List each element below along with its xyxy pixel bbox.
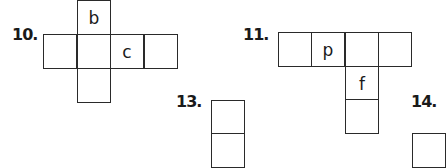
net-cell bbox=[77, 68, 111, 103]
net-cell bbox=[144, 34, 178, 69]
net-cell bbox=[378, 32, 412, 67]
net-cell bbox=[211, 133, 245, 168]
problem-number-13: 13. bbox=[176, 92, 201, 111]
net-cell bbox=[278, 32, 312, 67]
net-cell: c bbox=[110, 34, 144, 69]
net-cell bbox=[211, 100, 245, 135]
net-cell bbox=[43, 34, 77, 69]
net-cell: f bbox=[345, 66, 379, 101]
net-cell bbox=[412, 133, 446, 168]
net-cell bbox=[77, 34, 111, 69]
problem-number-14: 14. bbox=[411, 92, 436, 111]
net-cell: p bbox=[311, 32, 345, 67]
net-cell: b bbox=[77, 0, 111, 35]
net-cell bbox=[345, 32, 379, 67]
problem-number-11: 11. bbox=[243, 25, 268, 44]
problem-number-10: 10. bbox=[12, 25, 37, 44]
net-cell bbox=[345, 99, 379, 134]
